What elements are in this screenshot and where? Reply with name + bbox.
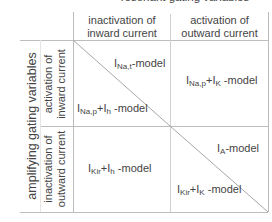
top-axis-title: resonant gating variables [100,0,270,3]
row-header-line: activation of [42,41,55,127]
row-header-activation-inward: activation of inward current [42,41,70,127]
row-header-line: inactivation of [42,122,55,216]
cell-label-i-kir-plus-i-h-model: IKir+Ih -model [88,162,151,176]
row-header-line: outward current [55,122,68,216]
column-header-inactivation-inward: inactivation of inward current [74,14,170,40]
cell-label-i-a-model: IA-model [217,142,259,156]
cell-label-i-na-p-plus-i-k-model: INa,p+IK -model [186,74,257,88]
cell-label-i-na-t-model: INa,t-model [114,57,165,71]
row-header-line: inward current [55,41,68,127]
left-axis-title: amplifying gating variables [25,41,41,211]
cell-label-i-na-p-plus-i-h-model: INa,p+Ih -model [77,102,148,116]
column-header-line: inward current [74,27,170,40]
column-header-line: activation of [171,14,268,27]
column-header-line: outward current [171,27,268,40]
cell-label-i-kir-plus-i-k-model: IKir+IK -model [177,183,241,197]
row-header-inactivation-outward: inactivation of outward current [42,122,70,216]
column-header-activation-outward: activation of outward current [171,14,268,40]
column-header-line: inactivation of [74,14,170,27]
